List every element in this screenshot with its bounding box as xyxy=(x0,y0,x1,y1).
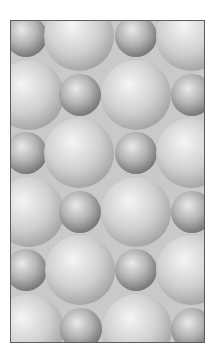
small-sphere xyxy=(59,191,101,233)
small-sphere xyxy=(115,249,157,291)
small-sphere xyxy=(115,132,157,174)
sphere-lattice-frame xyxy=(10,20,205,343)
large-sphere xyxy=(44,118,114,188)
small-sphere xyxy=(59,74,101,116)
large-sphere xyxy=(101,60,171,130)
sphere-lattice xyxy=(11,21,204,342)
large-sphere xyxy=(101,177,171,247)
large-sphere xyxy=(45,235,115,305)
